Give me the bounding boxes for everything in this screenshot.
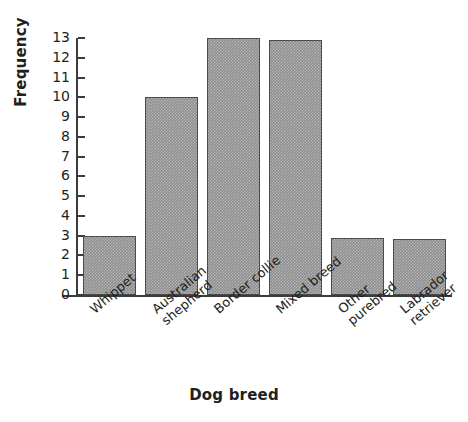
x-axis-category-labels: WhippetAustralianshepherdBorder collieMi… [0,297,468,387]
y-axis-tick-label-text: 13 [44,30,70,44]
bar [207,38,260,295]
y-axis-tick-label: 13 [42,30,70,44]
y-axis-tick-label: 4 [42,208,70,222]
bar-series [78,38,450,295]
y-axis-tick-label: 12 [42,50,70,64]
y-axis-tick-label: 11 [42,70,70,84]
y-axis-tick-label-text: 9 [44,109,70,123]
y-axis-tick-label-text: 3 [44,228,70,242]
y-axis-tick-label: 10 [42,89,70,103]
y-axis-tick-label-text: 12 [44,50,70,64]
y-axis-tick-label: 3 [42,228,70,242]
y-axis-tick-label: 2 [42,247,70,261]
y-axis-tick-label: 8 [42,129,70,143]
y-axis-tick-label-text: 2 [44,247,70,261]
y-axis-tick-label-text: 10 [44,89,70,103]
y-axis-tick-label-text: 1 [44,267,70,281]
y-axis-tick-label-text: 6 [44,168,70,182]
y-axis-tick-label-text: 4 [44,208,70,222]
y-axis-tick-label-text: 5 [44,188,70,202]
y-axis-tick-label: 9 [42,109,70,123]
y-axis-tick-label: 5 [42,188,70,202]
y-axis-tick-label-text: 11 [44,70,70,84]
y-axis-title: Frequency [12,0,30,132]
y-axis-tick-label: 6 [42,168,70,182]
bar-chart: Frequency 131211109876543210 WhippetAust… [0,0,468,422]
y-axis-tick-label-text: 8 [44,129,70,143]
bar [145,97,198,295]
x-axis-title: Dog breed [0,386,468,404]
y-axis-tick-label-text: 7 [44,149,70,163]
y-axis-tick-label: 7 [42,149,70,163]
y-axis-tick-label: 1 [42,267,70,281]
